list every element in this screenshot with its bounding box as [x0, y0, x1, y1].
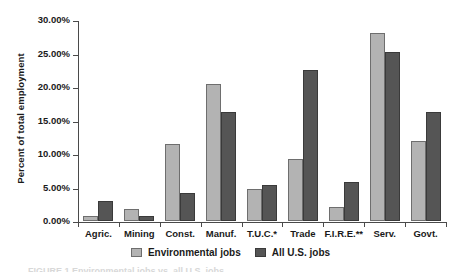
- legend-swatch-icon: [255, 248, 266, 257]
- bar-group: [370, 20, 400, 221]
- x-axis-tick-mark: [323, 222, 324, 227]
- y-axis-line: [78, 21, 79, 223]
- x-axis-tick-label: Const.: [160, 228, 201, 239]
- bar-environmental: [411, 141, 426, 221]
- bar-group: [206, 20, 236, 221]
- bar-all-us: [98, 201, 113, 221]
- x-axis-tick-mark: [282, 222, 283, 227]
- bar-all-us: [221, 112, 236, 221]
- bar-environmental: [165, 144, 180, 221]
- y-axis-tick-label: 30.00%: [38, 14, 70, 25]
- legend-label: Environmental jobs: [148, 247, 241, 258]
- y-axis-tick-label: 15.00%: [38, 115, 70, 126]
- x-axis-tick-label: T.U.C.*: [242, 228, 283, 239]
- x-axis-tick-label: Serv.: [364, 228, 405, 239]
- y-axis-tick-label: 10.00%: [38, 148, 70, 159]
- x-axis-tick-label: F.I.R.E.**: [323, 228, 364, 239]
- x-axis-tick-label: Agric.: [78, 228, 119, 239]
- x-axis-tick-label: Govt.: [405, 228, 446, 239]
- y-axis-tick-label: 25.00%: [38, 48, 70, 59]
- x-axis-tick-mark: [446, 222, 447, 227]
- bar-group: [247, 20, 277, 221]
- figure-caption-sliver: FIGURE 1 Environmental jobs vs. all U.S.…: [28, 266, 328, 272]
- y-axis-tick-mark: [73, 155, 78, 156]
- bar-environmental: [247, 189, 262, 221]
- bar-group: [411, 20, 441, 221]
- bar-all-us: [385, 52, 400, 222]
- y-axis-tick-mark: [73, 122, 78, 123]
- x-axis-line: [78, 222, 446, 223]
- y-axis-tick-label: 20.00%: [38, 81, 70, 92]
- x-axis-tick-mark: [242, 222, 243, 227]
- bar-group: [329, 20, 359, 221]
- plot-area: 0.00%5.00%10.00%15.00%20.00%25.00%30.00%…: [78, 21, 446, 222]
- x-axis-tick-mark: [78, 222, 79, 227]
- bar-group: [124, 20, 154, 221]
- x-axis-tick-mark: [201, 222, 202, 227]
- legend-swatch-icon: [131, 248, 142, 257]
- bar-all-us: [139, 216, 154, 221]
- bar-group: [165, 20, 195, 221]
- bar-all-us: [426, 112, 441, 221]
- legend-item: All U.S. jobs: [255, 247, 330, 258]
- bar-all-us: [262, 185, 277, 221]
- figure-bar-chart: Percent of total employment 0.00%5.00%10…: [0, 0, 461, 272]
- bar-environmental: [370, 33, 385, 221]
- y-axis-tick-label: 0.00%: [43, 215, 70, 226]
- legend-item: Environmental jobs: [131, 247, 241, 258]
- bar-environmental: [83, 216, 98, 221]
- y-axis-tick: 15.00%: [2, 122, 78, 123]
- x-axis-tick-label: Trade: [282, 228, 323, 239]
- y-axis-tick-mark: [73, 88, 78, 89]
- y-axis-tick-mark: [73, 189, 78, 190]
- y-axis-tick-mark: [73, 21, 78, 22]
- bar-group: [83, 20, 113, 221]
- x-axis-tick-label: Manuf.: [201, 228, 242, 239]
- bar-all-us: [303, 70, 318, 221]
- y-axis-tick-mark: [73, 55, 78, 56]
- x-axis-tick-mark: [119, 222, 120, 227]
- x-axis-tick-label: Mining: [119, 228, 160, 239]
- bar-environmental: [288, 159, 303, 221]
- bar-group: [288, 20, 318, 221]
- bar-environmental: [329, 207, 344, 221]
- y-axis-tick-label: 5.00%: [43, 182, 70, 193]
- y-axis-tick: 30.00%: [2, 21, 78, 22]
- y-axis-tick: 5.00%: [2, 189, 78, 190]
- y-axis-tick: 25.00%: [2, 55, 78, 56]
- legend-label: All U.S. jobs: [272, 247, 330, 258]
- bar-all-us: [344, 182, 359, 221]
- x-axis-tick-mark: [160, 222, 161, 227]
- y-axis-tick: 0.00%: [2, 222, 78, 223]
- bar-environmental: [206, 84, 221, 221]
- bar-environmental: [124, 209, 139, 221]
- y-axis-tick: 10.00%: [2, 155, 78, 156]
- chart-legend: Environmental jobsAll U.S. jobs: [0, 247, 461, 258]
- x-axis-tick-mark: [364, 222, 365, 227]
- y-axis-tick: 20.00%: [2, 88, 78, 89]
- x-axis-tick-mark: [405, 222, 406, 227]
- bar-all-us: [180, 193, 195, 221]
